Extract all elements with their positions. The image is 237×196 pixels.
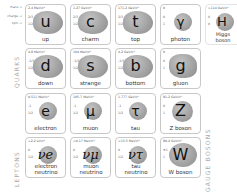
- particle-name: electron: [26, 126, 65, 132]
- mass-value: 105.7 MeV/c²: [73, 95, 94, 99]
- mass-value: 171.2 GeV/c²: [118, 6, 139, 10]
- particle-card-down: 4.8 MeV/c² -1/3 1/2 d down: [25, 48, 66, 89]
- quarks-label: QUARKS: [13, 56, 20, 88]
- mass-value: 4.8 MeV/c²: [28, 50, 45, 54]
- particle-card-electron-neutrino: <2.2 eV/c² 0 1/2 νe electron neutrino: [25, 137, 66, 178]
- mass-value: <0.17 MeV/c²: [73, 139, 95, 143]
- particle-symbol: W: [161, 144, 200, 166]
- particle-name: top: [116, 37, 155, 43]
- particle-card-bottom: 4.2 GeV/c² -1/3 1/2 b bottom: [115, 48, 156, 89]
- particle-symbol: u: [26, 11, 65, 33]
- legend-spin: spin →: [0, 21, 22, 25]
- particle-symbol: e: [26, 100, 65, 122]
- mass-value: 2.4 MeV/c²: [28, 6, 45, 10]
- particle-card-tau-neutrino: <15.5 MeV/c² 0 1/2 ντ tau neutrino: [115, 137, 156, 178]
- particle-card-z-boson: 91.2 GeV/c² 0 1 Z Z boson: [160, 93, 201, 134]
- particle-symbol: μ: [71, 100, 110, 122]
- particle-name: bottom: [116, 81, 155, 87]
- particle-card-top: 171.2 GeV/c² 2/3 1/2 t top: [115, 4, 156, 45]
- particle-symbol: c: [71, 11, 110, 33]
- particle-name: up: [26, 37, 65, 43]
- particle-name: tau: [116, 126, 155, 132]
- particle-symbol: Z: [161, 100, 200, 122]
- particle-name: gluon: [161, 81, 200, 87]
- particle-card-tau: 1.777 GeV/c² -1 1/2 τ tau: [115, 93, 156, 134]
- particle-card-w-boson: 80.4 GeV/c² ±1 1 W W boson: [160, 137, 201, 178]
- particle-symbol: τ: [116, 100, 155, 122]
- legend-charge: charge →: [0, 14, 22, 18]
- particle-name: Higgs boson: [209, 32, 237, 43]
- particle-name: Z boson: [161, 126, 200, 132]
- particle-name: electron neutrino: [32, 164, 60, 175]
- particle-name: muon: [71, 126, 110, 132]
- particle-name: charm: [71, 37, 110, 43]
- mass-value: 1.27 GeV/c²: [73, 6, 92, 10]
- mass-value: <15.5 MeV/c²: [118, 139, 140, 143]
- particle-name: muon neutrino: [77, 164, 105, 175]
- particle-card-charm: 1.27 GeV/c² 2/3 1/2 c charm: [70, 4, 111, 45]
- particle-card-muon-neutrino: <0.17 MeV/c² 0 1/2 νμ muon neutrino: [70, 137, 111, 178]
- particle-symbol: γ: [161, 11, 200, 33]
- particle-symbol: b: [116, 55, 155, 77]
- particle-name: photon: [161, 37, 200, 43]
- mass-value: >114 GeV/c²: [208, 6, 228, 10]
- particle-card-photon: 0 0 1 γ photon: [160, 4, 201, 45]
- particle-card-gluon: 0 0 1 g gluon: [160, 48, 201, 89]
- particle-symbol: H: [204, 11, 237, 33]
- particle-card-higgs: >114 GeV/c² 0 0 H Higgs boson: [205, 4, 237, 45]
- legend-mass: mass →: [0, 5, 22, 9]
- particle-name: strange: [71, 81, 110, 87]
- particle-name: W boson: [161, 170, 200, 176]
- mass-value: 104 MeV/c²: [73, 50, 91, 54]
- particle-card-electron: 0.511 MeV/c² -1 1/2 e electron: [25, 93, 66, 134]
- mass-value: 0.511 MeV/c²: [28, 95, 49, 99]
- mass-value: 0: [163, 50, 165, 54]
- particle-card-muon: 105.7 MeV/c² -1 1/2 μ muon: [70, 93, 111, 134]
- mass-value: 91.2 GeV/c²: [163, 95, 182, 99]
- particle-symbol: g: [161, 55, 200, 77]
- particle-name: tau neutrino: [122, 164, 150, 175]
- mass-value: 0: [163, 6, 165, 10]
- mass-value: <2.2 eV/c²: [28, 139, 45, 143]
- mass-value: 4.2 GeV/c²: [118, 50, 135, 54]
- particle-symbol: s: [71, 55, 110, 77]
- gauge-bosons-label: GAUGE BOSONS: [204, 129, 211, 192]
- particle-card-up: 2.4 MeV/c² 2/3 1/2 u up: [25, 4, 66, 45]
- particle-card-strange: 104 MeV/c² -1/3 1/2 s strange: [70, 48, 111, 89]
- particle-name: down: [26, 81, 65, 87]
- mass-value: 1.777 GeV/c²: [118, 95, 139, 99]
- particle-symbol: t: [116, 11, 155, 33]
- leptons-label: LEPTONS: [13, 151, 20, 187]
- particle-symbol: d: [26, 55, 65, 77]
